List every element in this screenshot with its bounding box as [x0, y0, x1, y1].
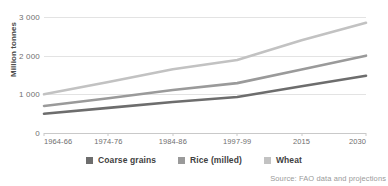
legend-swatch-icon [178, 157, 185, 164]
x-axis-tick-mark [301, 133, 302, 136]
legend-swatch-icon [86, 157, 93, 164]
x-axis-tick-label: 1974-76 [94, 137, 122, 146]
y-axis-tick-labels: 01 0002 0003 000 [0, 17, 40, 133]
x-axis-tick-mark [44, 133, 45, 136]
legend-item[interactable]: Coarse grains [86, 155, 156, 165]
x-axis-tick-label: 1984-86 [159, 137, 187, 146]
y-axis-tick-label: 1 000 [0, 90, 40, 99]
x-axis-tick-label: 2015 [293, 137, 310, 146]
chart-container: Million tonnes 01 0002 0003 000 1964-661… [0, 0, 388, 186]
chart-legend: Coarse grainsRice (milled)Wheat [0, 155, 388, 165]
x-axis-line [44, 133, 366, 134]
x-axis-tick-mark [172, 133, 173, 136]
x-axis-tick-label: 2030 [349, 137, 366, 146]
x-axis-tick-label: 1964-66 [44, 137, 72, 146]
x-axis-tick-mark [237, 133, 238, 136]
series-line [44, 76, 366, 114]
legend-label: Coarse grains [98, 155, 156, 165]
legend-item[interactable]: Rice (milled) [178, 155, 242, 165]
source-note: Source: FAO data and projections [270, 174, 386, 183]
y-axis-tick-label: 3 000 [0, 13, 40, 22]
legend-label: Wheat [276, 155, 302, 165]
x-axis-tick-mark [366, 133, 367, 136]
legend-swatch-icon [264, 157, 271, 164]
x-axis-tick-label: 1997-99 [223, 137, 251, 146]
x-axis-tick-mark [108, 133, 109, 136]
legend-item[interactable]: Wheat [264, 155, 302, 165]
series-lines [44, 17, 366, 133]
x-axis-tick-labels: 1964-661974-761984-861997-9920152030 [44, 137, 366, 151]
legend-label: Rice (milled) [190, 155, 242, 165]
plot-area [44, 17, 366, 133]
y-axis-tick-label: 0 [0, 129, 40, 138]
y-axis-tick-label: 2 000 [0, 51, 40, 60]
